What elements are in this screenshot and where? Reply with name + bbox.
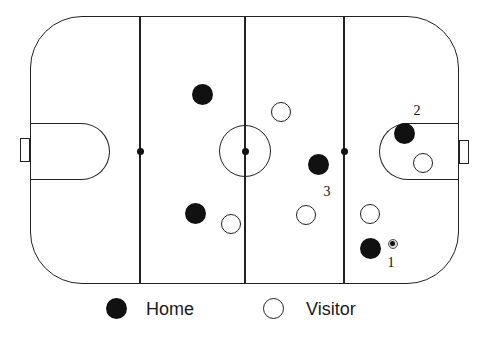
faceoff-dot: [137, 148, 144, 155]
player-number-label: 1: [388, 256, 395, 270]
visitor-player-marker: [221, 214, 241, 234]
home-legend-label: Home: [146, 299, 194, 319]
home-player-marker: [308, 154, 329, 175]
faceoff-dot: [341, 148, 348, 155]
visitor-legend-label: Visitor: [306, 299, 356, 319]
center-circle: [219, 125, 271, 177]
goal-right: [459, 140, 469, 164]
home-player-marker: [394, 123, 415, 144]
goal-left: [20, 138, 30, 162]
home-player-marker: [192, 84, 213, 105]
player-number-label: 3: [324, 185, 331, 199]
home-player-marker: [185, 203, 206, 224]
puck-icon: [388, 239, 398, 249]
home-player-marker: [360, 238, 381, 259]
visitor-player-marker: [271, 102, 291, 122]
home-legend-marker: [106, 298, 127, 319]
visitor-player-marker: [413, 153, 433, 173]
visitor-player-marker: [296, 205, 316, 225]
diagram-canvas: 123 Home Visitor: [0, 0, 498, 341]
visitor-legend-marker: [263, 298, 284, 319]
puck-core: [390, 241, 395, 246]
visitor-player-marker: [360, 204, 380, 224]
goal-crease-left: [30, 123, 110, 180]
player-number-label: 2: [414, 104, 421, 118]
